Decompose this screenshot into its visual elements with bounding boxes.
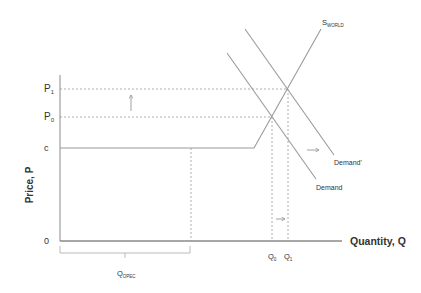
q0-label: Q0 [268,252,277,262]
origin-label: 0 [44,236,49,246]
supply-demand-diagram: P1 P0 c 0 Price, P Quantity, Q Q0 Q1 QOP… [0,0,421,293]
demand-shifted-curve [245,29,334,155]
q1-label: Q1 [284,252,293,262]
diagram-canvas: P1 P0 c 0 Price, P Quantity, Q Q0 Q1 QOP… [0,0,421,293]
y-axis-label: Price, P [24,166,35,203]
demand-label: Demand [316,184,343,191]
supply-world-label: SWORLD [322,18,345,28]
demand-curve [227,53,316,179]
p0-label: P0 [44,111,55,123]
x-axis-label: Quantity, Q [350,235,406,247]
qopec-label: QOPEC [117,269,136,279]
qopec-bracket [60,246,190,258]
c-label: c [44,143,49,153]
demand-shifted-label: Demand' [334,159,362,166]
p1-label: P1 [44,83,55,95]
